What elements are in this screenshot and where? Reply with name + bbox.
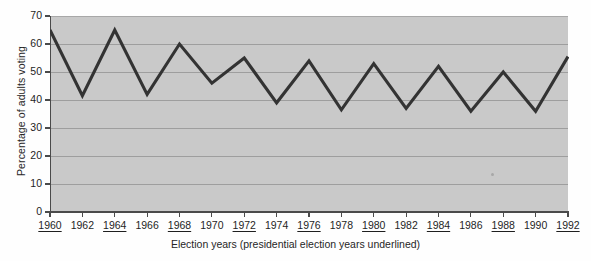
voter-turnout-chart: Percentage of adults voting 010203040506…: [0, 0, 591, 261]
x-tick-label-1962: 1962: [65, 219, 99, 231]
y-tick-label-50: 50: [8, 65, 42, 77]
y-tick-label-20: 20: [8, 149, 42, 161]
x-tick-label-1988: 1988: [486, 219, 520, 231]
x-tick-label-1978: 1978: [324, 219, 358, 231]
x-tick-label-1970: 1970: [195, 219, 229, 231]
x-tick-label-1960: 1960: [33, 219, 67, 231]
y-tick-label-0: 0: [8, 205, 42, 217]
x-tick-label-1968: 1968: [163, 219, 197, 231]
x-tick-label-1964: 1964: [98, 219, 132, 231]
x-tick-label-1986: 1986: [454, 219, 488, 231]
turnout-polyline: [50, 30, 568, 111]
x-tick-label-1980: 1980: [357, 219, 391, 231]
y-tick-label-70: 70: [8, 9, 42, 21]
y-tick-label-40: 40: [8, 93, 42, 105]
y-tick-label-30: 30: [8, 121, 42, 133]
x-tick-label-1966: 1966: [130, 219, 164, 231]
x-tick-label-1974: 1974: [260, 219, 294, 231]
x-axis-caption: Election years (presidential election ye…: [0, 238, 591, 250]
x-tick-label-1976: 1976: [292, 219, 326, 231]
x-tick-label-1982: 1982: [389, 219, 423, 231]
turnout-line-series: [50, 16, 569, 213]
x-tick-label-1972: 1972: [227, 219, 261, 231]
x-tick-label-1990: 1990: [519, 219, 553, 231]
y-tick-label-10: 10: [8, 177, 42, 189]
y-tick-label-60: 60: [8, 37, 42, 49]
x-tick-label-1992: 1992: [551, 219, 585, 231]
x-tick-label-1984: 1984: [422, 219, 456, 231]
